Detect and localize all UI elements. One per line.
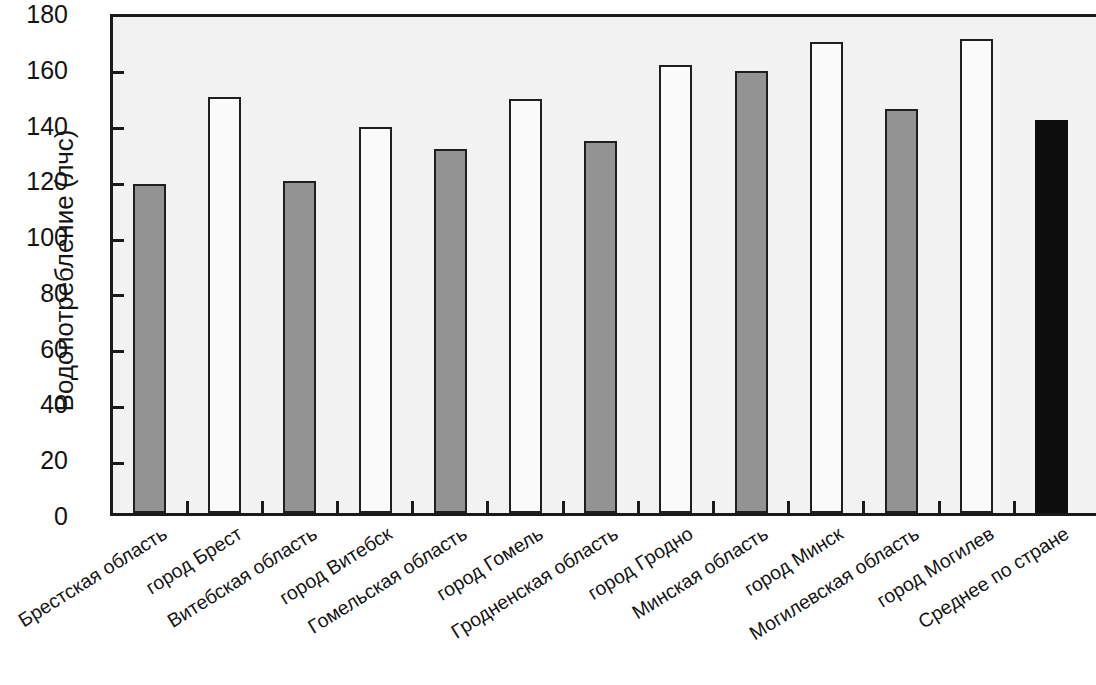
- bar: [208, 97, 241, 513]
- y-tick-label: 180: [10, 0, 68, 29]
- x-tick-label-text: Минская область: [628, 522, 772, 624]
- x-tick-mark: [1013, 501, 1016, 513]
- y-tick-label: 80: [10, 278, 68, 307]
- y-tick-mark: [113, 127, 124, 130]
- bar: [359, 127, 392, 513]
- y-tick-mark: [113, 406, 124, 409]
- bar: [133, 184, 166, 513]
- y-tick-label: 100: [10, 223, 68, 252]
- bar: [584, 141, 617, 513]
- y-tick-label: 160: [10, 55, 68, 84]
- x-axis-tick-labels: Брестская областьгород БрестВитебская об…: [0, 516, 1096, 685]
- x-tick-mark: [411, 501, 414, 513]
- y-tick-mark: [113, 350, 124, 353]
- x-tick-mark: [862, 501, 865, 513]
- bar: [885, 109, 918, 513]
- y-tick-label: 60: [10, 334, 68, 363]
- bar: [659, 65, 692, 513]
- y-tick-label: 20: [10, 446, 68, 475]
- bar: [509, 99, 542, 513]
- y-tick-mark: [113, 71, 124, 74]
- y-tick-mark: [113, 462, 124, 465]
- x-tick-label: Минская область: [628, 522, 772, 624]
- bar: [960, 39, 993, 513]
- bar: [434, 149, 467, 513]
- bar: [735, 71, 768, 513]
- x-tick-mark: [486, 501, 489, 513]
- y-tick-label: 40: [10, 390, 68, 419]
- y-tick-mark: [113, 294, 124, 297]
- bar: [1035, 120, 1068, 513]
- bar: [810, 42, 843, 513]
- plot-area: [110, 14, 1096, 516]
- x-tick-mark: [712, 501, 715, 513]
- bar: [283, 181, 316, 513]
- x-tick-mark: [938, 501, 941, 513]
- y-tick-label: 140: [10, 111, 68, 140]
- x-tick-mark: [637, 501, 640, 513]
- plot-inner: [113, 17, 1096, 513]
- x-tick-mark: [336, 501, 339, 513]
- x-tick-mark: [787, 501, 790, 513]
- y-tick-mark: [113, 183, 124, 186]
- bar-chart: Водопотребление (лчс) 020406080100120140…: [0, 0, 1096, 685]
- x-tick-mark: [261, 501, 264, 513]
- y-tick-mark: [113, 239, 124, 242]
- y-tick-label: 120: [10, 167, 68, 196]
- x-tick-mark: [186, 501, 189, 513]
- x-tick-mark: [562, 501, 565, 513]
